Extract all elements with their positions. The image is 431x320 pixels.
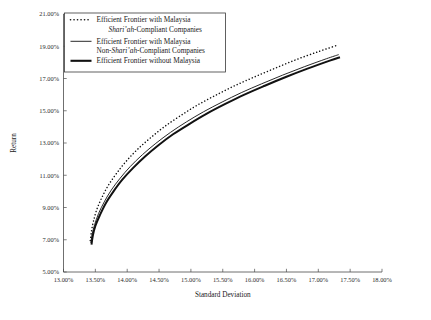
frontier-curve-2 (92, 57, 340, 244)
x-axis-title: Standard Deviation (195, 291, 251, 299)
chart-legend: Efficient Frontier with MalaysiaShari’ah… (65, 13, 226, 72)
legend-label-1: Efficient Frontier with Malaysia (97, 37, 192, 46)
y-tick-label: 17.00% (39, 75, 59, 82)
y-tick-label: 7.00% (42, 236, 59, 243)
x-tick-label: 15.00% (181, 276, 201, 283)
x-tick-label: 15.50% (213, 276, 233, 283)
x-tick-label: 16.00% (245, 276, 265, 283)
x-tick-label: 17.50% (340, 276, 360, 283)
y-tick-label: 21.00% (39, 10, 59, 17)
y-tick-label: 5.00% (42, 268, 59, 275)
y-axis-title: Return (10, 133, 18, 153)
efficient-frontier-figure: 13.00%13.50%14.00%14.50%15.00%15.50%16.0… (0, 0, 431, 320)
x-axis-ticks: 13.00%13.50%14.00%14.50%15.00%15.50%16.0… (54, 269, 393, 283)
chart-canvas: 13.00%13.50%14.00%14.50%15.00%15.50%16.0… (0, 0, 431, 320)
x-tick-label: 13.00% (54, 276, 74, 283)
frontier-curves (90, 45, 340, 244)
x-tick-label: 14.00% (117, 276, 137, 283)
y-tick-label: 19.00% (39, 43, 59, 50)
y-tick-label: 13.00% (39, 139, 59, 146)
frontier-curve-0 (90, 45, 337, 240)
legend-label-0: Efficient Frontier with Malaysia (97, 15, 192, 24)
frontier-curve-1 (91, 55, 339, 243)
legend-label-1-line2: Non-Shari’ah-Compliant Companies (97, 46, 206, 55)
x-tick-label: 17.00% (308, 276, 328, 283)
y-tick-label: 15.00% (39, 107, 59, 114)
y-tick-label: 9.00% (42, 204, 59, 211)
x-tick-label: 14.50% (149, 276, 169, 283)
y-axis-ticks: 5.00%7.00%9.00%11.00%13.00%15.00%17.00%1… (39, 10, 66, 275)
x-tick-label: 16.50% (277, 276, 297, 283)
x-tick-label: 18.00% (372, 276, 392, 283)
y-tick-label: 11.00% (40, 172, 60, 179)
legend-label-0-line2: Shari’ah-Compliant Companies (109, 25, 203, 34)
legend-label-2: Efficient Frontier without Malaysia (97, 56, 201, 65)
x-tick-label: 13.50% (85, 276, 105, 283)
